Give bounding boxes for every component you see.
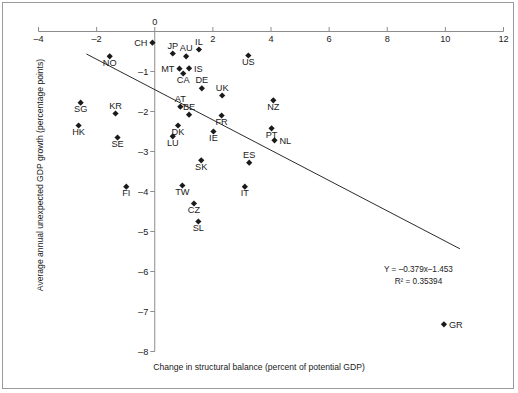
data-point[interactable]: DE [195, 75, 208, 91]
y-tick-label: –8 [138, 347, 148, 357]
data-point-label: SL [193, 223, 204, 233]
data-point[interactable]: IS [186, 64, 203, 74]
scatter-plot-svg: CHJPAUILNOMTISCAUSDEUKNZSGKRATBEFRHKDKPT… [0, 0, 518, 393]
data-point[interactable]: JP [167, 41, 178, 57]
y-tick-label: –3 [138, 147, 148, 157]
data-point-label: FI [122, 188, 130, 198]
data-point[interactable]: ES [243, 150, 255, 166]
data-point-label: IS [194, 64, 203, 74]
data-point-label: CA [177, 75, 191, 85]
data-point-label: SE [111, 139, 123, 149]
data-point[interactable]: SK [195, 157, 208, 172]
data-point[interactable]: KR [109, 101, 122, 117]
data-point-marker[interactable] [196, 46, 202, 52]
data-point[interactable]: SE [111, 134, 123, 149]
data-point-marker[interactable] [183, 53, 189, 59]
data-point-label: SK [195, 162, 208, 172]
regression-r2-line: R² = 0.35394 [384, 276, 453, 288]
data-point-label: AU [180, 43, 193, 53]
x-tick-label: 0 [152, 17, 157, 27]
x-tick-label: 6 [327, 34, 332, 44]
data-point-marker[interactable] [112, 110, 118, 116]
data-point-label: NZ [267, 102, 280, 112]
y-tick-label: –2 [138, 107, 148, 117]
data-point[interactable]: MT [161, 64, 182, 74]
data-point[interactable]: NZ [267, 97, 280, 112]
data-point[interactable]: UK [216, 83, 230, 99]
data-point-label: CZ [188, 205, 201, 215]
data-point-marker[interactable] [246, 160, 252, 166]
data-point[interactable]: CH [134, 38, 155, 48]
y-axis-label: Average annual unexpected GDP growth (pe… [35, 25, 45, 325]
x-tick-label: 10 [440, 34, 450, 44]
data-point[interactable]: IE [209, 128, 218, 143]
y-tick-label: –5 [138, 227, 148, 237]
data-point[interactable]: IT [241, 184, 250, 199]
tick-labels-group: –4–2024681012–1–2–3–4–5–6–7–8 [33, 17, 508, 357]
data-point-label: CH [134, 38, 147, 48]
data-point[interactable]: CZ [188, 200, 201, 215]
axes-group [39, 27, 504, 352]
data-point-label: PT [266, 130, 278, 140]
data-point-label: BE [183, 102, 195, 112]
data-point-marker[interactable] [219, 92, 225, 98]
data-point[interactable]: TW [175, 182, 190, 197]
chart-figure: CHJPAUILNOMTISCAUSDEUKNZSGKRATBEFRHKDKPT… [0, 0, 518, 393]
data-point-label: NL [279, 136, 291, 146]
data-point-label: US [242, 57, 255, 67]
data-point-label: JP [167, 41, 178, 51]
data-point[interactable]: SL [193, 218, 204, 233]
data-point-marker[interactable] [441, 321, 447, 327]
data-point[interactable]: US [242, 52, 255, 67]
data-point-label: DE [195, 75, 208, 85]
data-point-label: KR [109, 101, 122, 111]
data-point-label: LU [167, 138, 179, 148]
data-point-label: ES [243, 150, 255, 160]
data-point-label: GR [449, 320, 463, 330]
regression-equation-line: Y = –0.379x–1.453 [384, 264, 453, 276]
data-point-label: MT [161, 64, 175, 74]
regression-equation-annotation: Y = –0.379x–1.453 R² = 0.35394 [384, 264, 453, 288]
data-point[interactable]: HK [72, 122, 86, 137]
data-point-marker[interactable] [186, 65, 192, 71]
data-point-marker[interactable] [186, 112, 192, 118]
y-tick-label: –4 [138, 187, 148, 197]
data-point-label: FR [215, 117, 228, 127]
data-point[interactable]: AU [180, 43, 193, 59]
y-tick-label: –7 [138, 307, 148, 317]
data-point[interactable]: CA [177, 70, 191, 85]
x-tick-label: 8 [385, 34, 390, 44]
x-tick-label: 4 [268, 34, 273, 44]
data-point-marker[interactable] [199, 85, 205, 91]
y-tick-label: –1 [138, 67, 148, 77]
data-point-label: IT [241, 188, 250, 198]
x-tick-label: 2 [210, 34, 215, 44]
data-point[interactable]: FR [215, 112, 228, 127]
data-point-label: IE [209, 133, 218, 143]
data-point-label: SG [74, 104, 87, 114]
data-point[interactable]: FI [122, 184, 130, 199]
data-point[interactable]: GR [441, 320, 463, 330]
data-point-label: NO [103, 58, 117, 68]
data-point-label: IL [195, 37, 203, 47]
data-point[interactable]: NO [103, 53, 117, 68]
data-point-label: UK [216, 83, 230, 93]
data-point[interactable]: BE [183, 102, 195, 118]
x-tick-label: 12 [498, 34, 508, 44]
data-point-marker[interactable] [176, 66, 182, 72]
data-point[interactable]: PT [266, 125, 278, 140]
y-tick-label: –6 [138, 267, 148, 277]
x-axis-label: Change in structural balance (percent of… [0, 362, 518, 372]
data-point-label: HK [72, 127, 86, 137]
data-point[interactable]: IL [195, 37, 203, 53]
data-point[interactable]: SG [74, 100, 87, 115]
data-point-label: TW [175, 187, 190, 197]
x-tick-label: –2 [92, 34, 102, 44]
data-point-marker[interactable] [170, 50, 176, 56]
